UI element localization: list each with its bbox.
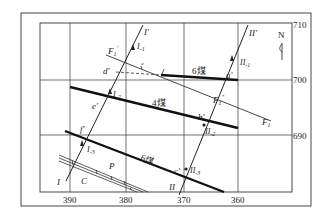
- line1-start-label: I: [56, 177, 61, 187]
- strata-p-label: P: [108, 161, 115, 171]
- line2-end-label: II': [248, 28, 258, 38]
- north-arrow-icon: [280, 43, 282, 60]
- point-ii-3: II-3: [189, 166, 200, 176]
- line2-start-label: II: [168, 182, 176, 192]
- strata-band-cp: [59, 155, 148, 192]
- point-f-label: f': [80, 124, 86, 134]
- x-tick-390: 390: [63, 195, 77, 205]
- y-tick-710: 710: [293, 20, 307, 30]
- fault-f1-double-prime-label: F1″: [212, 94, 225, 106]
- grid: [40, 23, 292, 192]
- x-tick-360: 360: [231, 195, 245, 205]
- point-a-label: a': [226, 70, 234, 80]
- x-tick-380: 380: [119, 195, 133, 205]
- point-b-label: b': [198, 112, 206, 122]
- x-tick-370: 370: [177, 195, 191, 205]
- dash-mark-label: a: [141, 61, 144, 66]
- point-marker-icon: [184, 167, 187, 170]
- fault-f1-label: F1: [261, 117, 271, 128]
- north-label: N: [278, 30, 285, 40]
- point-i-1: I-1: [136, 42, 145, 52]
- point-e-label: e': [92, 101, 99, 111]
- geological-map: N 710 700 690 390 380 370 360 6煤 4煤 6煤 I…: [0, 0, 326, 218]
- seam6-arrow-tick: [162, 69, 164, 74]
- point-d-label: d': [103, 66, 111, 76]
- arrow-marker-icon: [80, 140, 84, 146]
- fault-tick: [141, 66, 142, 69]
- strata-c-label: C: [81, 176, 88, 186]
- map-frame: [40, 23, 292, 192]
- point-i-3: I-3: [86, 145, 95, 155]
- arrow-marker-icon: [230, 55, 234, 61]
- y-tick-690: 690: [293, 131, 307, 141]
- seam4-label: 4煤: [152, 97, 166, 108]
- point-ii-1: II-1: [239, 58, 250, 68]
- y-tick-700: 700: [293, 75, 307, 85]
- fault-f1-prime-label: F1': [107, 44, 119, 57]
- line1-end-label: I': [143, 27, 150, 37]
- point-ii-2: II-2: [204, 127, 215, 137]
- seam6-upper-label: 6煤: [192, 65, 206, 76]
- point-i-2: I-2: [112, 90, 121, 100]
